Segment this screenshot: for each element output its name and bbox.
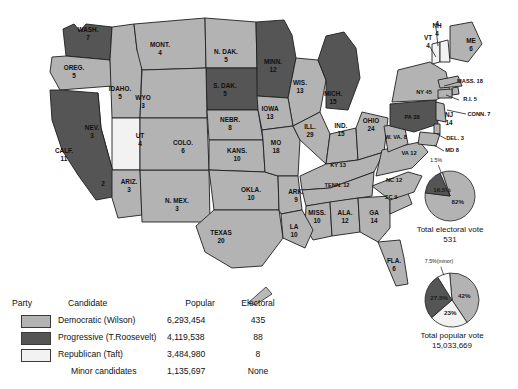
pie-slice-label: 82% <box>452 198 465 205</box>
pie-caption-line1: Total popular vote <box>420 331 484 340</box>
svg-text:WYO: WYO <box>135 94 150 101</box>
svg-text:MICH.: MICH. <box>324 90 342 97</box>
legend-popular-votes: 6,293,454 <box>167 315 233 325</box>
state-label-pa: PA 38 <box>404 114 419 120</box>
svg-text:5: 5 <box>118 93 122 100</box>
legend-candidate: Minor candidates <box>71 366 136 376</box>
svg-text:N. MEX.: N. MEX. <box>165 197 189 204</box>
state-texas <box>196 210 283 268</box>
svg-text:3: 3 <box>175 205 179 212</box>
legend-electoral-votes: 88 <box>231 332 285 342</box>
svg-text:10: 10 <box>313 217 321 224</box>
state-label-tenn: TENN. 12 <box>325 182 350 188</box>
svg-text:9: 9 <box>294 196 298 203</box>
svg-text:W. VA. 8: W. VA. 8 <box>385 134 407 140</box>
pie-slice-label: 42% <box>458 292 471 299</box>
state-label-ny: NY 45 <box>416 89 432 95</box>
svg-text:6: 6 <box>392 265 396 272</box>
svg-text:DEL. 3: DEL. 3 <box>446 135 464 141</box>
svg-text:MISS.: MISS. <box>308 209 326 216</box>
state-label-la: LA10 <box>290 223 299 238</box>
svg-text:3: 3 <box>90 132 94 139</box>
svg-text:11: 11 <box>61 155 68 162</box>
legend-electoral-votes: 435 <box>231 315 285 325</box>
svg-text:29: 29 <box>306 131 314 138</box>
svg-text:18: 18 <box>272 147 280 154</box>
svg-text:8: 8 <box>228 124 232 131</box>
pie-slice-label: 1.5% <box>430 157 442 163</box>
svg-text:4: 4 <box>426 42 430 49</box>
legend-header-party: Party <box>12 298 32 308</box>
pie-slice-label: 27.5% <box>430 294 448 301</box>
svg-text:MONT.: MONT. <box>150 41 170 48</box>
svg-text:WIS.: WIS. <box>293 79 307 86</box>
svg-text:14: 14 <box>370 217 378 224</box>
legend-header-electoral: Electoral <box>231 298 285 308</box>
svg-text:GA: GA <box>369 209 379 216</box>
legend-table: Party Candidate Popular ElectoralDemocra… <box>9 296 281 382</box>
svg-text:10: 10 <box>233 155 241 162</box>
state-ark <box>278 176 302 214</box>
state-label-ky: KY 13 <box>330 162 346 168</box>
state-mont <box>134 18 206 70</box>
legend-header-row: Party Candidate Popular Electoral <box>9 296 281 313</box>
svg-text:FLA.: FLA. <box>387 257 401 264</box>
state-nh <box>440 40 450 62</box>
svg-text:N. DAK.: N. DAK. <box>214 48 238 55</box>
legend-electoral-votes: 8 <box>231 349 285 359</box>
svg-text:ARK.: ARK. <box>288 188 304 195</box>
pie-slice-label: 23% <box>444 309 457 316</box>
legend-color-swatch <box>21 332 51 345</box>
svg-text:COLO.: COLO. <box>173 139 193 146</box>
state-label-mass: MASS. 18 <box>457 78 483 84</box>
pie-caption-line1: Total electoral vote <box>417 225 484 234</box>
svg-text:MO: MO <box>271 139 281 146</box>
legend-row: Progressive (T.Roosevelt) 4,119,538 88 <box>9 330 281 347</box>
svg-text:13: 13 <box>296 87 304 94</box>
svg-text:PA 38: PA 38 <box>404 114 419 120</box>
svg-text:TENN. 12: TENN. 12 <box>325 182 350 188</box>
svg-text:ARIZ.: ARIZ. <box>121 178 138 185</box>
map-annotation: 4 <box>435 20 439 27</box>
undefined: 42%23%27.5%7.5%(minor)Total popular vote… <box>420 258 484 350</box>
svg-text:20: 20 <box>217 237 225 244</box>
svg-text:VT: VT <box>424 34 432 41</box>
svg-text:10: 10 <box>247 194 255 201</box>
svg-text:5: 5 <box>72 72 76 79</box>
svg-text:VA 12: VA 12 <box>401 150 416 156</box>
svg-text:LA: LA <box>290 223 299 230</box>
state-ri <box>452 87 459 95</box>
legend-popular-votes: 3,484,980 <box>167 349 233 359</box>
svg-text:12: 12 <box>269 66 277 73</box>
svg-text:IOWA: IOWA <box>261 105 278 112</box>
state-label-ri: R.I. 5 <box>463 96 477 102</box>
legend-header-popular: Popular <box>167 298 233 308</box>
svg-text:4: 4 <box>158 49 162 56</box>
pie-slice-label: 7.5%(minor) <box>425 258 454 264</box>
state-label-vt: VT4 <box>424 34 432 49</box>
svg-text:3: 3 <box>141 102 145 109</box>
svg-text:NC 12: NC 12 <box>386 177 402 183</box>
svg-text:TEXAS: TEXAS <box>210 229 232 236</box>
pie-leader-line <box>438 165 441 173</box>
svg-text:SC 9: SC 9 <box>385 194 398 200</box>
state-label-sc: SC 9 <box>385 194 398 200</box>
svg-text:OREG.: OREG. <box>64 64 85 71</box>
legend-row: Minor candidates 1,135,697 None <box>9 364 281 381</box>
legend-candidate: Republican (Taft) <box>58 349 123 359</box>
svg-text:5: 5 <box>223 90 227 97</box>
svg-text:MINN.: MINN. <box>264 58 282 65</box>
svg-text:MASS. 18: MASS. 18 <box>457 78 483 84</box>
legend-candidate: Progressive (T.Roosevelt) <box>58 332 156 342</box>
legend-candidate: Democratic (Wilson) <box>58 315 135 325</box>
legend-popular-votes: 1,135,697 <box>167 366 233 376</box>
pie-charts: 82%16.5%1.5%Total electoral vote53142%23… <box>417 157 484 351</box>
svg-text:15: 15 <box>329 98 337 105</box>
state-label-wva: W. VA. 8 <box>385 134 407 140</box>
legend-popular-votes: 4,119,538 <box>167 332 233 342</box>
state-oreg <box>50 56 112 90</box>
undefined: 82%16.5%1.5%Total electoral vote531 <box>417 157 484 245</box>
svg-text:5: 5 <box>224 56 228 63</box>
svg-text:UT: UT <box>136 132 145 139</box>
state-label-nj: NJ14 <box>445 111 454 126</box>
